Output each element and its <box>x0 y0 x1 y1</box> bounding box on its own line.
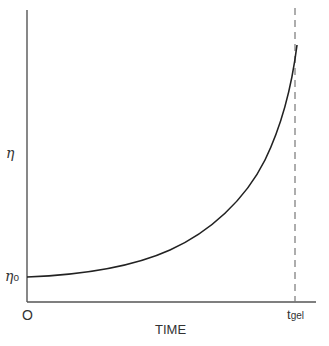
y-axis-label: η <box>6 145 14 161</box>
x-axis-label: TIME <box>155 322 186 337</box>
t-gel-label: tgel <box>287 307 304 322</box>
viscosity-curve <box>27 45 297 277</box>
eta-zero-label: ηo <box>5 268 19 284</box>
origin-label: O <box>22 307 33 323</box>
t-gel-sub: gel <box>291 310 304 321</box>
plot-area <box>0 0 329 346</box>
eta-zero-sub: o <box>13 272 19 283</box>
